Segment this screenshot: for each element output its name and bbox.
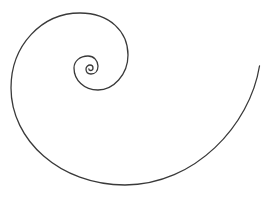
background [0, 0, 269, 200]
spiral-diagram [0, 0, 269, 200]
